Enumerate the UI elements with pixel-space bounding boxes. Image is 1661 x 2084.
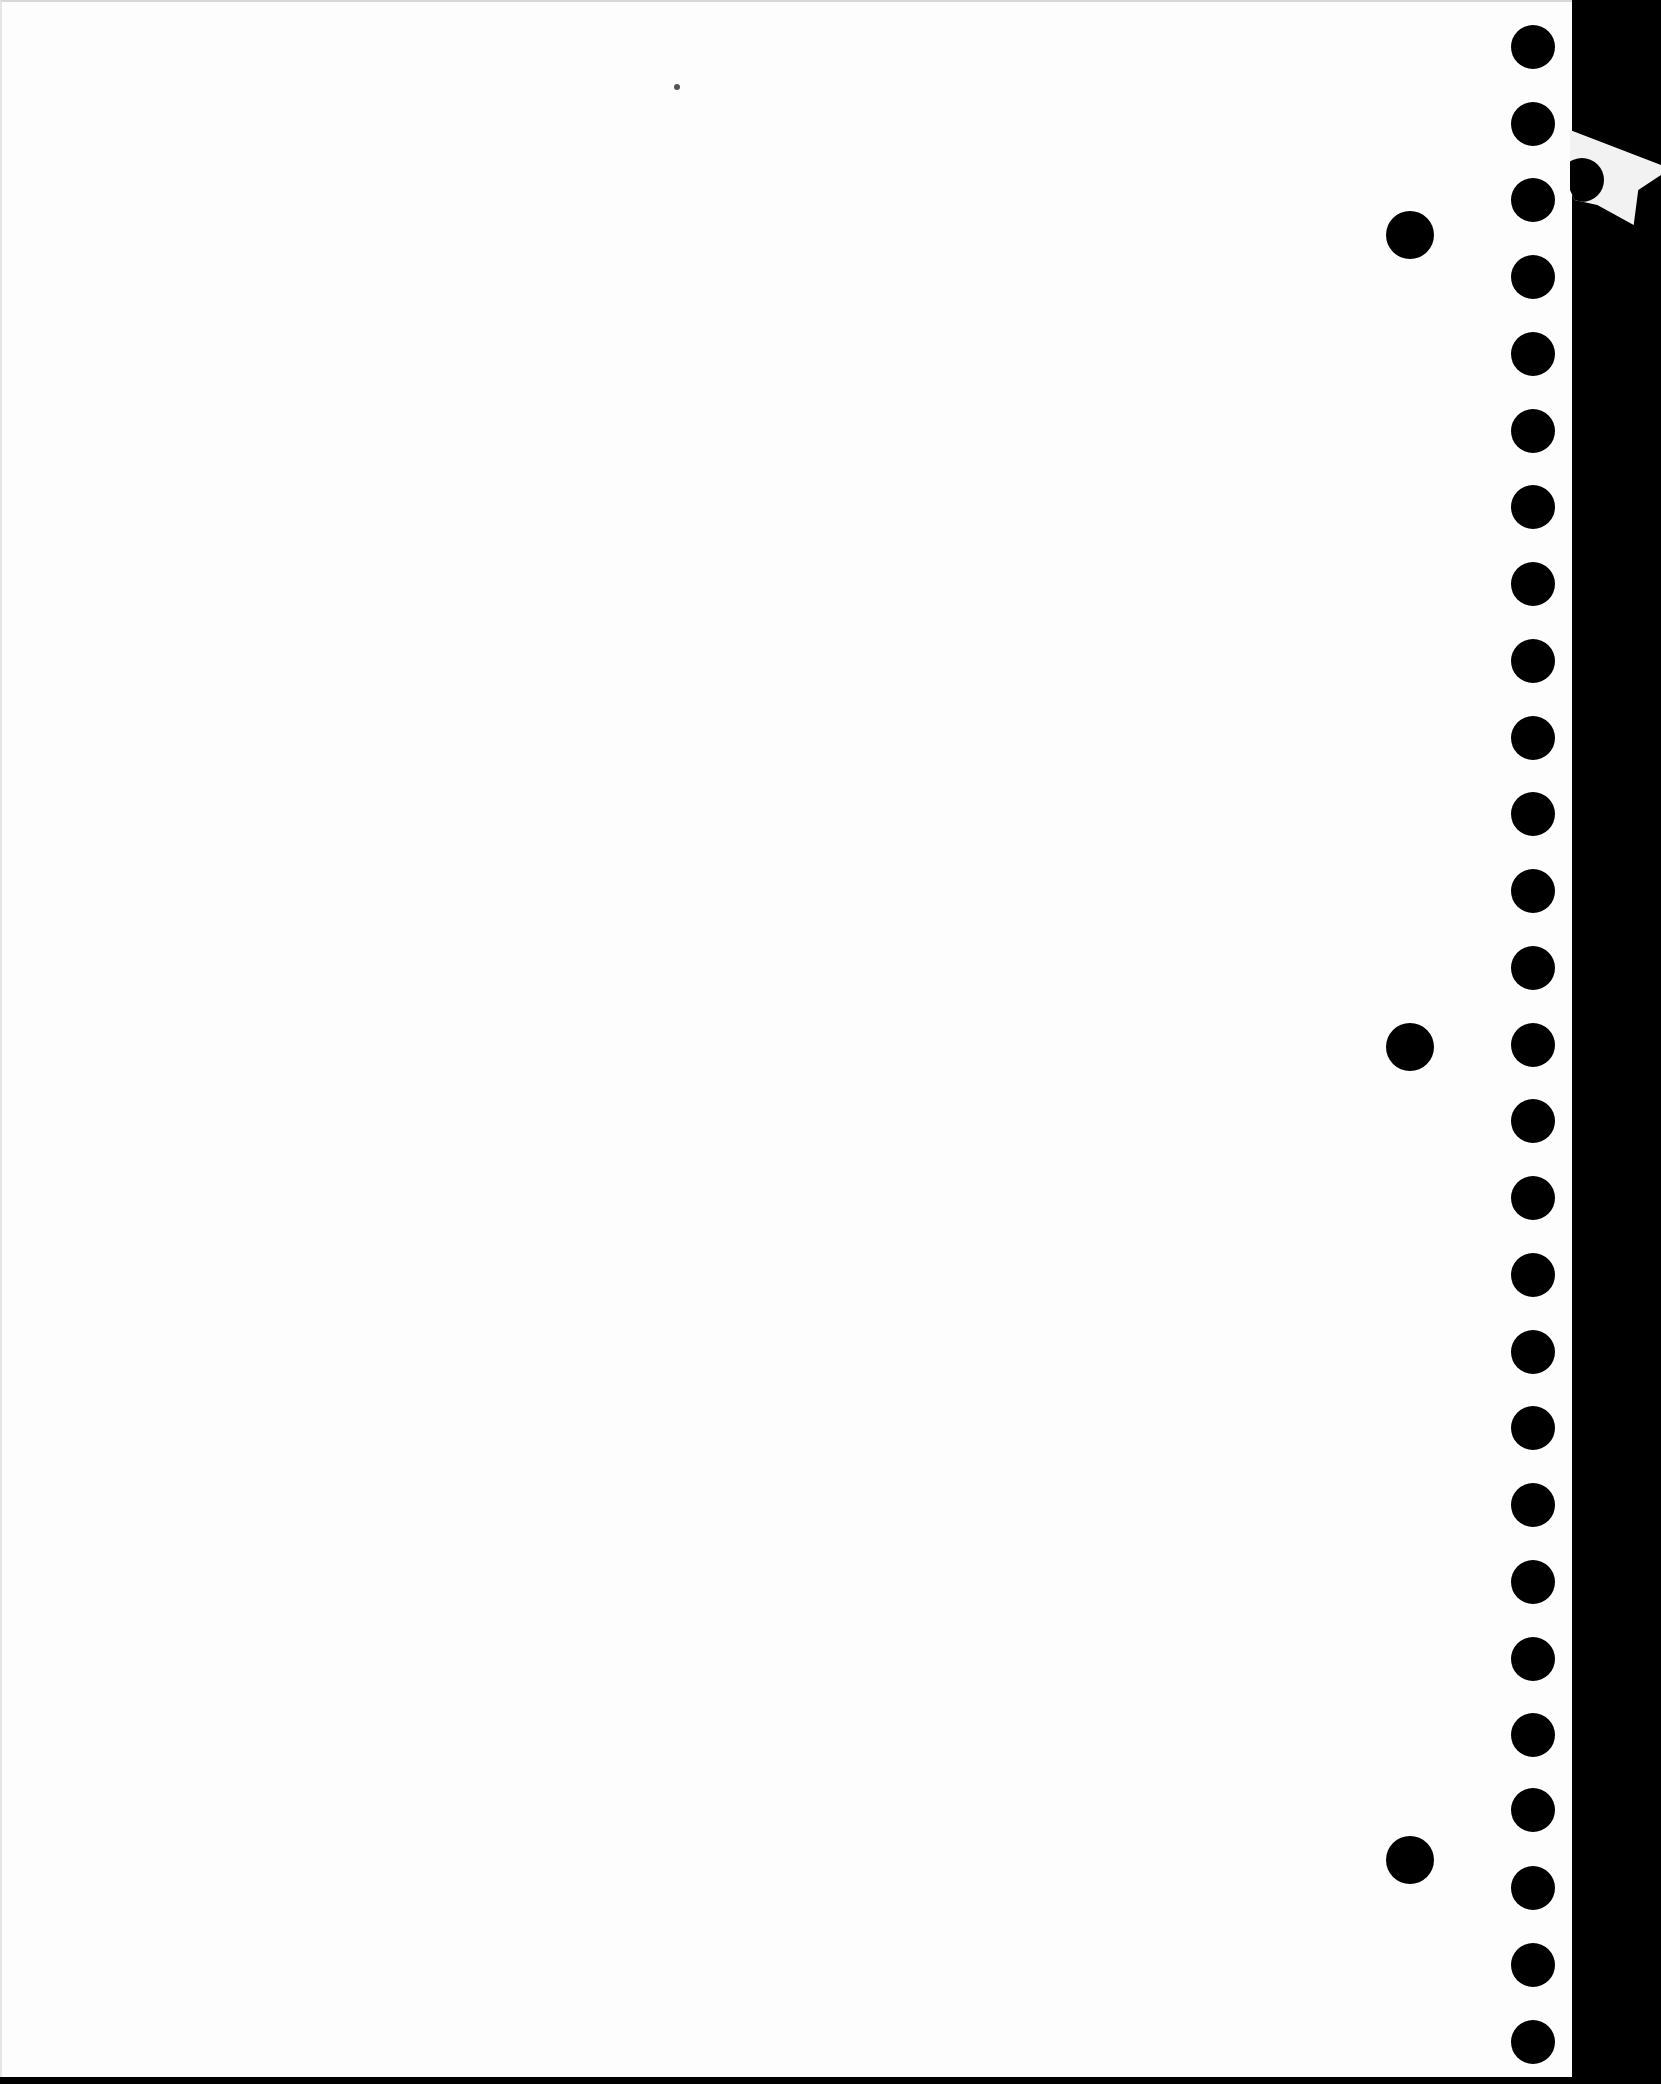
binder-hole-icon — [1511, 1023, 1555, 1067]
binder-hole-icon — [1511, 639, 1555, 683]
binder-hole-icon — [1511, 25, 1555, 69]
binder-hole-icon — [1511, 1560, 1555, 1604]
binder-hole-icon — [1511, 2020, 1555, 2064]
large-binder-hole-icon — [1386, 1836, 1434, 1884]
binder-hole-icon — [1511, 1483, 1555, 1527]
binder-hole-icon — [1511, 1099, 1555, 1143]
binder-hole-icon — [1511, 1866, 1555, 1910]
scrap-hole-icon — [1640, 180, 1661, 224]
binder-hole-icon — [1511, 869, 1555, 913]
scan-bottom-edge — [0, 2077, 1661, 2084]
binder-hole-icon — [1511, 1406, 1555, 1450]
binder-hole-icon — [1511, 255, 1555, 299]
binder-hole-icon — [1511, 1176, 1555, 1220]
torn-paper-scrap — [1570, 130, 1661, 230]
ink-speck — [674, 84, 680, 90]
binder-hole-icon — [1511, 1943, 1555, 1987]
binder-hole-icon — [1511, 1788, 1555, 1832]
large-binder-hole-icon — [1386, 211, 1434, 259]
binder-hole-icon — [1511, 1637, 1555, 1681]
large-binder-hole-icon — [1386, 1023, 1434, 1071]
binder-hole-icon — [1511, 562, 1555, 606]
binder-hole-icon — [1511, 792, 1555, 836]
binder-hole-icon — [1511, 1330, 1555, 1374]
binder-hole-icon — [1511, 332, 1555, 376]
binder-hole-icon — [1511, 409, 1555, 453]
scanned-page — [0, 0, 1572, 2079]
binder-hole-icon — [1511, 946, 1555, 990]
binder-hole-icon — [1511, 102, 1555, 146]
binder-hole-icon — [1511, 1253, 1555, 1297]
binder-hole-icon — [1511, 178, 1555, 222]
binder-hole-icon — [1511, 1713, 1555, 1757]
binder-hole-icon — [1511, 716, 1555, 760]
binder-hole-icon — [1511, 485, 1555, 529]
